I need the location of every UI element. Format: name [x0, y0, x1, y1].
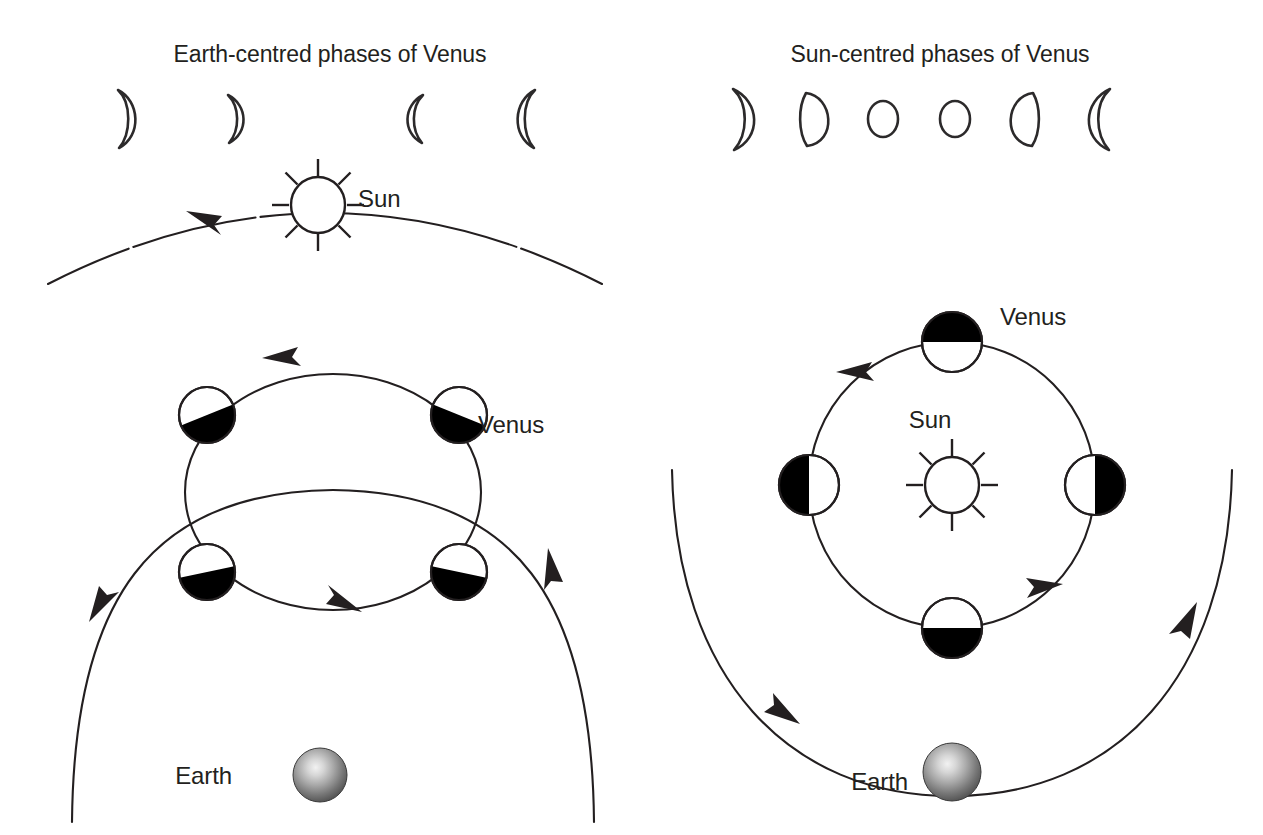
sun-symbol-right: [906, 439, 998, 531]
phase-strip-earth-centred: [118, 90, 535, 148]
deferent-arrowhead-right: [544, 548, 563, 590]
phase-strip-sun-centred: [733, 89, 1110, 150]
phase-full-small-b: [940, 101, 970, 137]
earth-label-left: Earth: [175, 762, 232, 789]
phase-gibbous-waning: [1011, 93, 1039, 146]
phase-gibbous-waxing: [800, 93, 828, 146]
phase-crescent-waxing-large: [118, 90, 135, 148]
phase-crescent-waning-small: [407, 95, 423, 143]
venus-phases-diagram: Earth-centred phases of Venus: [0, 0, 1263, 835]
epicycle-arrowhead-bottom: [326, 585, 362, 612]
panel-sun-centred: Sun-centred phases of Venus: [672, 41, 1232, 801]
venus-orbit-bottom: [922, 598, 982, 658]
venus-orbit-top: [922, 312, 982, 372]
venus-orbit-right: [1065, 455, 1125, 515]
earth-sphere-right: [923, 743, 981, 801]
sun-disc: [925, 457, 979, 513]
venus-epicycle-lower-left: [174, 539, 240, 605]
sun-symbol-left: [272, 159, 364, 251]
phase-crescent-waxing-small: [228, 95, 244, 143]
phase-full-small-a: [868, 101, 898, 137]
phase-crescent-waning-large: [518, 90, 535, 148]
panel-title-earth-centred: Earth-centred phases of Venus: [174, 41, 487, 67]
epicycle-arrowhead-top: [262, 347, 301, 366]
phase-crescent-waning-large-r: [1089, 89, 1110, 150]
venus-epicycle-lower-right: [426, 539, 492, 605]
earth-orbit-arrowhead-left: [764, 693, 800, 724]
earth-label-right: Earth: [851, 768, 908, 795]
sun-disc: [291, 177, 345, 233]
panel-title-sun-centred: Sun-centred phases of Venus: [790, 41, 1089, 67]
venus-epicycle-upper-left: [171, 379, 244, 452]
panel-earth-centred: Earth-centred phases of Venus: [48, 41, 602, 822]
sun-label-left: Sun: [358, 185, 400, 212]
venus-orbit-left: [779, 455, 839, 515]
venus-label-left: Venus: [478, 411, 544, 438]
earth-orbit-arrowhead-right: [1169, 602, 1197, 639]
figure-root: Earth-centred phases of Venus: [0, 0, 1263, 835]
venus-label-right: Venus: [1000, 303, 1066, 330]
venus-orbit-arrowhead-upper-left: [836, 362, 874, 381]
phase-crescent-waxing-large-r: [733, 89, 754, 150]
earth-sphere-left: [293, 748, 347, 802]
sun-label-right: Sun: [909, 406, 951, 433]
